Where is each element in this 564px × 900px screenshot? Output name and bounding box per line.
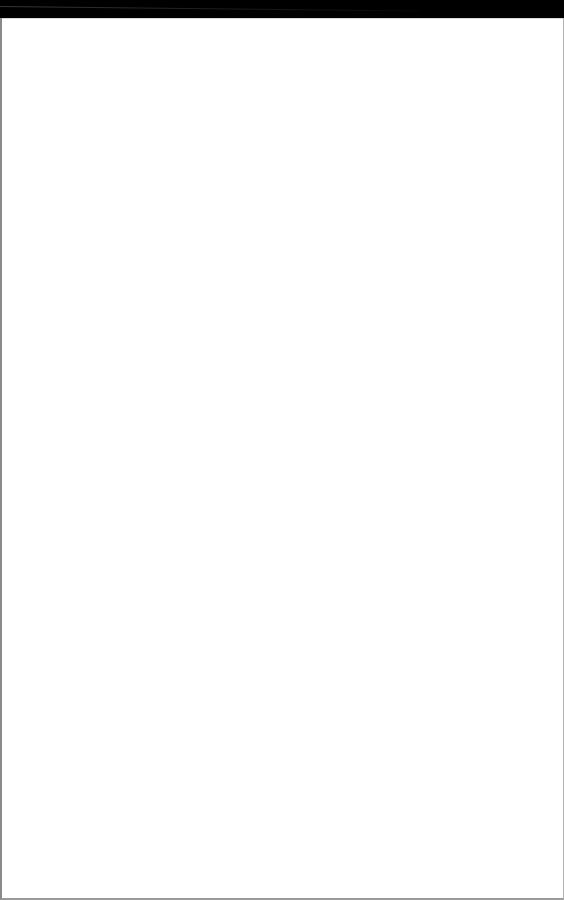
top-band-streak [0,6,420,11]
blank-page [0,18,564,900]
page-top-edge [2,18,563,19]
screen-frame [0,0,564,900]
top-black-band [0,0,564,18]
